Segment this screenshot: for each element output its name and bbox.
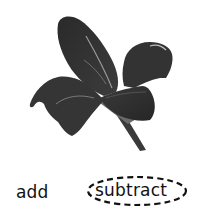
answer-choices: add subtract: [0, 170, 198, 215]
flower-image: [0, 0, 198, 160]
option-subtract[interactable]: subtract: [95, 182, 167, 199]
option-add[interactable]: add: [16, 184, 49, 201]
flower-photo: [0, 0, 198, 160]
